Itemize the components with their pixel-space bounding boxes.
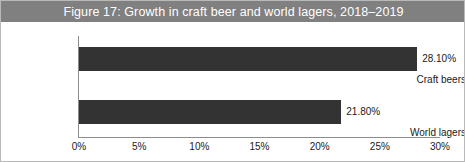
value-axis-line xyxy=(78,137,440,138)
bar-value-world-lagers: 21.80% xyxy=(346,106,380,117)
figure-title: Figure 17: Growth in craft beer and worl… xyxy=(63,5,403,19)
x-axis-tick-label: 20% xyxy=(310,141,330,152)
figure-container: Figure 17: Growth in craft beer and worl… xyxy=(0,0,465,162)
category-label-world-lagers: World lagers xyxy=(394,127,465,138)
x-axis-tick-label: 0% xyxy=(72,141,86,152)
x-axis-tick-label: 10% xyxy=(189,141,209,152)
x-axis-tick-label: 30% xyxy=(430,141,450,152)
bar-craft-beers xyxy=(79,47,417,71)
bar-world-lagers xyxy=(79,100,341,124)
chart-plot-area: Craft beers World lagers 28.10% 21.80% 0… xyxy=(1,22,465,162)
x-axis-tick-label: 5% xyxy=(132,141,146,152)
bar-value-craft-beers: 28.10% xyxy=(422,53,456,64)
figure-title-bar: Figure 17: Growth in craft beer and worl… xyxy=(1,1,465,22)
category-label-craft-beers: Craft beers xyxy=(394,74,465,85)
x-axis-tick-label: 25% xyxy=(370,141,390,152)
x-axis-tick-label: 15% xyxy=(249,141,269,152)
